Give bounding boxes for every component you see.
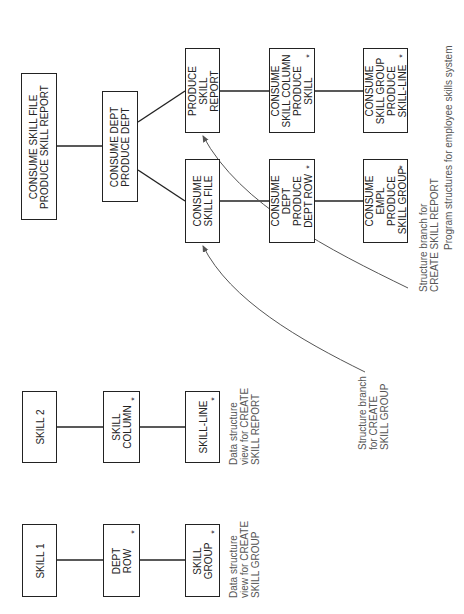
box-label: SKILL COLUMN: [281, 54, 292, 127]
diagram-canvas: CONSUME SKILL FILE PRODUCE SKILL REPORT …: [0, 0, 464, 614]
box-skill-column: * SKILL COLUMN: [103, 391, 140, 463]
box-label: SKILL GROUP: [397, 168, 408, 234]
box-consume-empl: * CONSUME EMPL PRODUCE SKILL GROUP: [363, 159, 408, 243]
box-label: SKILL GROUP: [375, 57, 386, 123]
figure-title: Program structures for employee skills s…: [443, 45, 454, 250]
caption-line: SKILL REPORT: [250, 388, 261, 465]
box-label: CONSUME: [364, 168, 375, 234]
box-consume-skill-column: * CONSUME SKILL COLUMN PRODUCE SKILL: [269, 48, 315, 133]
box-skill-2: SKILL 2: [22, 391, 57, 463]
box-label: CONSUME SKILL FILE: [28, 85, 39, 209]
caption-line: Data structure: [228, 388, 239, 465]
iteration-marker-icon: *: [129, 530, 139, 534]
iteration-marker-icon: *: [209, 397, 219, 401]
box-label: EMPL: [375, 168, 386, 234]
box-label: PRODUCE: [292, 174, 303, 228]
box-label: DEPT: [281, 174, 292, 228]
caption-line: SKILL GROUP: [250, 521, 261, 598]
box-produce-skill-report: PRODUCE SKILL REPORT: [185, 48, 220, 133]
caption-data-view-report: Data structure view for CREATE SKILL REP…: [228, 388, 261, 465]
box-consume-file-produce-report: CONSUME SKILL FILE PRODUCE SKILL REPORT: [21, 73, 57, 220]
box-label: CONSUME: [192, 175, 203, 226]
arrow-branch-group: [203, 246, 365, 372]
box-consume-skill-file: CONSUME SKILL FILE: [185, 159, 220, 243]
box-skill-1: SKILL 1: [22, 524, 57, 597]
box-consume-skill-group-line: * CONSUME SKILL GROUP PRODUCE SKILL-LINE: [363, 48, 408, 133]
caption-line: view for CREATE: [239, 521, 250, 598]
connector-dept-report: [138, 91, 185, 122]
annotation-branch-group: Structure branch for CREATE SKILL GROUP: [357, 376, 390, 450]
box-label: CONSUME: [270, 174, 281, 228]
box-label: ROW: [122, 547, 133, 574]
annotation-line: CREATE SKILL REPORT: [429, 178, 440, 292]
box-label: SKILL 1: [34, 543, 45, 578]
annotation-line: for CREATE: [368, 376, 379, 450]
box-label: SKILL: [111, 405, 122, 448]
box-label: CONSUME DEPT: [109, 106, 120, 187]
box-label: GROUP: [203, 542, 214, 579]
box-label: CONSUME: [270, 54, 281, 127]
caption-line: view for CREATE: [239, 388, 250, 465]
box-label: PRODUCE: [186, 65, 197, 115]
iteration-marker-icon: *: [209, 530, 219, 534]
annotation-line: Structure branch: [357, 376, 368, 450]
box-label: SKILL: [192, 542, 203, 579]
box-label: SKILL-LINE: [397, 57, 408, 123]
box-label: CONSUME: [364, 57, 375, 123]
annotation-branch-report: Structure branch for CREATE SKILL REPORT: [418, 178, 440, 292]
figure-title-text: Program structures for employee skills s…: [443, 45, 454, 250]
box-skill-line: * SKILL-LINE: [185, 391, 220, 463]
box-skill-group: * SKILL GROUP: [185, 524, 220, 597]
box-label: PRODUCE: [386, 168, 397, 234]
annotation-line: SKILL GROUP: [379, 376, 390, 450]
annotation-line: Structure branch for: [418, 178, 429, 292]
box-label: SKILL: [303, 54, 314, 127]
box-label: PRODUCE SKILL REPORT: [39, 85, 50, 209]
box-label: PRODUCE DEPT: [120, 106, 131, 187]
box-label: DEPT ROW: [303, 174, 314, 228]
box-label: SKILL FILE: [203, 175, 214, 226]
box-label: DEPT: [111, 547, 122, 574]
iteration-marker-icon: *: [304, 165, 314, 169]
box-label: COLUMN: [122, 405, 133, 448]
connector-dept-file: [138, 170, 185, 201]
box-label: SKILL: [197, 65, 208, 115]
box-label: PRODUCE: [386, 57, 397, 123]
box-dept-row: * DEPT ROW: [103, 524, 140, 597]
box-consume-dept-produce-dept: CONSUME DEPT PRODUCE DEPT: [102, 91, 138, 202]
caption-line: Data structure: [228, 521, 239, 598]
box-consume-dept-row: * CONSUME DEPT PRODUCE DEPT ROW: [269, 159, 315, 243]
box-label: SKILL 2: [34, 409, 45, 444]
box-label: REPORT: [208, 65, 219, 115]
box-label: PRODUCE: [292, 54, 303, 127]
iteration-marker-icon: *: [129, 397, 139, 401]
caption-data-view-group: Data structure view for CREATE SKILL GRO…: [228, 521, 261, 598]
box-label: SKILL-LINE: [197, 401, 208, 454]
